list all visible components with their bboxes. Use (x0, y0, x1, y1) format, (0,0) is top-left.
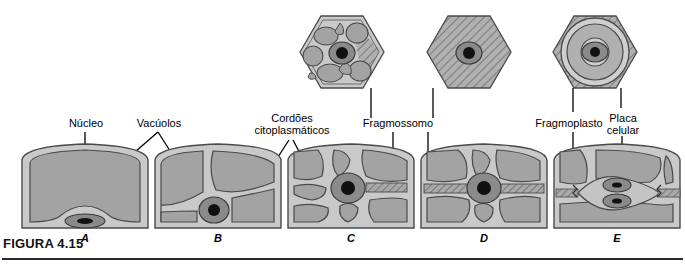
top-view-hexagon-c (300, 16, 384, 88)
stage-letter-d: D (464, 232, 504, 244)
label-cordoes-line2: citoplasmáticos (238, 125, 346, 137)
figure-4-15: Núcleo Vacúolos Cordões citoplasmáticos … (0, 0, 685, 271)
figure-caption: FIGURA 4.15 (3, 236, 83, 251)
stage-cell-b (155, 144, 281, 228)
label-cordoes-line1: Cordões (238, 113, 346, 125)
label-placa-line1: Placa (600, 113, 646, 125)
stage-letter-c: C (331, 232, 371, 244)
label-cordoes-citoplasmaticos: Cordões citoplasmáticos (238, 113, 346, 136)
top-view-hexagon-e (553, 16, 637, 88)
stage-letter-b: B (198, 232, 238, 244)
fragmosome-band-c (366, 183, 407, 192)
stage-cell-c (288, 144, 414, 228)
label-vacuolos: Vacúolos (126, 118, 192, 130)
stage-cell-d (421, 144, 547, 228)
top-view-hexagon-d (427, 16, 511, 88)
stage-cell-e (554, 144, 680, 228)
label-placa-line2: celular (600, 125, 646, 137)
label-placa-celular: Placa celular (600, 113, 646, 136)
label-fragmossomo: Fragmossomo (355, 118, 441, 130)
stage-letter-e: E (597, 232, 637, 244)
caption-rule (2, 258, 683, 260)
fragmosome-band-left-e (556, 189, 578, 197)
label-nucleo: Núcleo (58, 118, 114, 130)
stage-cell-a (22, 144, 148, 228)
